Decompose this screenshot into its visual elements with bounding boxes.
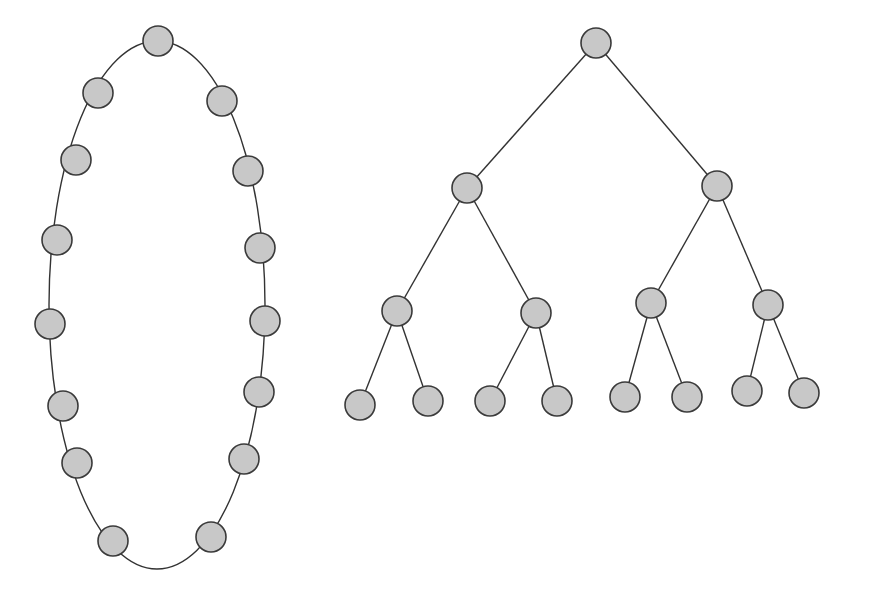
tree-edges bbox=[360, 43, 804, 405]
cycle-node bbox=[48, 391, 78, 421]
cycle-graph bbox=[35, 26, 280, 569]
cycle-nodes bbox=[35, 26, 280, 556]
cycle-node bbox=[42, 225, 72, 255]
tree-node bbox=[413, 386, 443, 416]
tree-node bbox=[789, 378, 819, 408]
cycle-node bbox=[83, 78, 113, 108]
tree-node bbox=[610, 382, 640, 412]
tree-node bbox=[702, 171, 732, 201]
cycle-node bbox=[229, 444, 259, 474]
cycle-edge-loop bbox=[49, 41, 265, 569]
tree-node bbox=[475, 386, 505, 416]
tree-node bbox=[672, 382, 702, 412]
cycle-node bbox=[98, 526, 128, 556]
tree-edge bbox=[651, 186, 717, 303]
cycle-node bbox=[143, 26, 173, 56]
tree-node bbox=[636, 288, 666, 318]
cycle-node bbox=[233, 156, 263, 186]
cycle-node bbox=[207, 86, 237, 116]
cycle-node bbox=[62, 448, 92, 478]
cycle-node bbox=[250, 306, 280, 336]
tree-edge bbox=[397, 188, 467, 311]
tree-node bbox=[452, 173, 482, 203]
tree-node bbox=[521, 298, 551, 328]
cycle-node bbox=[244, 377, 274, 407]
binary-tree bbox=[345, 28, 819, 420]
tree-edge bbox=[596, 43, 717, 186]
cycle-node bbox=[196, 522, 226, 552]
tree-node bbox=[581, 28, 611, 58]
graph-diagram bbox=[0, 0, 874, 598]
tree-node bbox=[345, 390, 375, 420]
tree-node bbox=[732, 376, 762, 406]
tree-node bbox=[753, 290, 783, 320]
tree-node bbox=[382, 296, 412, 326]
tree-edge bbox=[467, 43, 596, 188]
cycle-node bbox=[61, 145, 91, 175]
cycle-node bbox=[245, 233, 275, 263]
tree-edge bbox=[717, 186, 768, 305]
tree-edge bbox=[467, 188, 536, 313]
tree-node bbox=[542, 386, 572, 416]
tree-nodes bbox=[345, 28, 819, 420]
cycle-node bbox=[35, 309, 65, 339]
